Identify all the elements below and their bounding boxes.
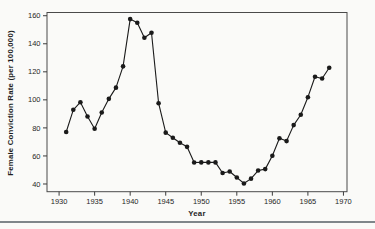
series-line xyxy=(66,19,329,183)
data-point xyxy=(64,130,69,135)
data-point xyxy=(213,160,218,165)
data-point xyxy=(156,101,161,106)
data-point xyxy=(320,76,325,81)
data-point xyxy=(178,140,183,145)
x-tick-label: 1950 xyxy=(193,197,210,206)
plot-area: 4060801001201401601930193519401945195019… xyxy=(28,11,352,205)
x-tick-label: 1945 xyxy=(157,197,174,206)
page-bottom-rule xyxy=(0,221,375,223)
data-point xyxy=(185,145,190,150)
y-axis-title: Female Conviction Rate (per 100,000) xyxy=(6,30,15,176)
page-background: 4060801001201401601930193519401945195019… xyxy=(0,0,375,229)
data-point xyxy=(78,100,83,105)
y-tick-label: 100 xyxy=(28,95,41,104)
data-point xyxy=(107,97,112,102)
data-point xyxy=(142,35,147,40)
data-point xyxy=(85,114,90,119)
x-tick-label: 1965 xyxy=(300,197,317,206)
data-point xyxy=(114,85,119,90)
data-point xyxy=(206,160,211,165)
data-point xyxy=(306,95,311,100)
data-point xyxy=(256,168,261,173)
data-point xyxy=(327,65,332,70)
data-point xyxy=(199,160,204,165)
data-point xyxy=(284,139,289,144)
data-point xyxy=(92,126,97,131)
y-tick-label: 80 xyxy=(32,124,40,133)
x-tick-label: 1970 xyxy=(335,197,352,206)
data-point xyxy=(277,136,282,141)
data-point xyxy=(71,108,76,113)
x-tick-label: 1960 xyxy=(264,197,281,206)
data-point xyxy=(227,169,232,174)
data-point xyxy=(171,135,176,140)
data-point xyxy=(163,130,168,135)
data-point xyxy=(298,112,303,117)
data-point xyxy=(220,171,225,176)
x-axis-title: Year xyxy=(188,209,205,218)
data-point xyxy=(149,30,154,35)
data-point xyxy=(291,123,296,128)
data-point xyxy=(99,110,104,115)
data-point xyxy=(249,176,254,181)
x-tick-label: 1940 xyxy=(122,197,139,206)
y-tick-label: 60 xyxy=(32,152,40,161)
x-tick-label: 1935 xyxy=(86,197,103,206)
data-point xyxy=(270,154,275,159)
y-tick-label: 40 xyxy=(32,180,40,189)
data-point xyxy=(263,167,268,172)
y-tick-label: 160 xyxy=(28,11,41,20)
conviction-rate-time-series-chart: 4060801001201401601930193519401945195019… xyxy=(0,0,375,229)
data-point xyxy=(242,181,247,186)
data-point xyxy=(135,20,140,25)
data-point xyxy=(121,64,126,69)
plot-frame xyxy=(47,13,347,192)
data-point xyxy=(128,17,133,22)
data-point xyxy=(192,160,197,165)
y-tick-label: 120 xyxy=(28,67,41,76)
data-point xyxy=(313,74,318,79)
y-tick-label: 140 xyxy=(28,39,41,48)
data-point xyxy=(235,175,240,180)
x-tick-label: 1955 xyxy=(228,197,245,206)
x-tick-label: 1930 xyxy=(51,197,68,206)
